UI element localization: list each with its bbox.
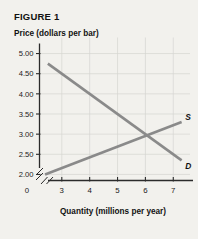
y-tick-label: 2.50 [19,150,34,159]
y-tick-label: 2.00 [19,170,34,179]
x-tick-label: 6 [143,186,147,195]
x-tick-label-origin: 0 [25,186,30,195]
x-tick-label: 4 [87,186,92,195]
curves [45,64,182,175]
tick-marks [36,54,173,182]
x-tick-labels: 034567 [25,186,176,195]
x-axis-break-mark [41,177,48,184]
axis-break-marks [36,168,53,184]
x-tick-label: 5 [115,186,120,195]
y-tick-label: 5.00 [19,49,34,58]
x-axis-label: Quantity (millions per year) [60,207,166,216]
gridlines [40,38,191,181]
curve-label-d: D [185,161,191,171]
supply-demand-chart: 2.002.503.003.504.004.505.00 034567 DS [0,0,198,239]
curve-s [45,122,182,174]
curve-label-s: S [185,112,191,122]
curve-d [48,64,182,161]
y-tick-label: 4.00 [19,90,34,99]
figure-card: FIGURE 1 Price (dollars per bar) 2.002.5… [0,0,198,239]
x-tick-label: 3 [60,186,64,195]
y-tick-label: 4.50 [19,69,34,78]
curve-labels: DS [185,112,191,171]
y-tick-label: 3.00 [19,130,34,139]
y-tick-labels: 2.002.503.003.504.004.505.00 [19,49,34,179]
y-tick-label: 3.50 [19,110,34,119]
x-tick-label: 7 [171,186,175,195]
